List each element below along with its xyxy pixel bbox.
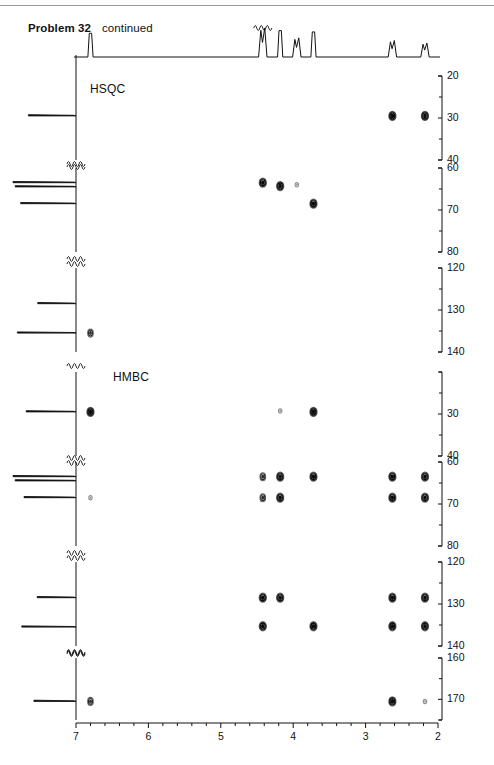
carbon-tick-hsqc-120: 120 [447, 261, 465, 273]
carbon-tick-hsqc-140: 140 [447, 345, 465, 357]
axis-break-top-5 [67, 556, 85, 561]
carbon-1d-hmbc-peak-6 [34, 700, 76, 701]
carbon-tick-hmbc-140: 140 [447, 639, 465, 651]
cross-peak-hmbc-8 [89, 496, 92, 500]
carbon-1d-hsqc-peak-0 [28, 115, 76, 116]
axis-break-bot-4 [67, 551, 85, 556]
proton-tick-5: 5 [218, 730, 224, 742]
carbon-tick-hmbc-30: 30 [447, 407, 459, 419]
carbon-1d-hmbc-peak-4 [37, 597, 76, 598]
cross-peak-hmbc-20 [421, 622, 428, 631]
carbon-tick-hsqc-70: 70 [447, 203, 459, 215]
proton-tick-3: 3 [363, 730, 369, 742]
carbon-tick-hmbc-70: 70 [447, 497, 459, 509]
cross-peak-hmbc-22 [389, 697, 396, 706]
cross-peak-hsqc-4 [295, 183, 298, 187]
cross-peak-hmbc-3 [260, 473, 266, 481]
spectrum-svg [0, 0, 494, 765]
cross-peak-hmbc-2 [310, 407, 317, 416]
cross-peak-hsqc-0 [389, 111, 396, 120]
proton-tick-4: 4 [290, 730, 296, 742]
proton-tick-6: 6 [145, 730, 151, 742]
cross-peak-hmbc-11 [389, 493, 396, 502]
proton-tick-2: 2 [435, 730, 441, 742]
carbon-1d-hmbc-peak-5 [22, 626, 76, 627]
cross-peak-hsqc-2 [259, 178, 266, 187]
cross-peak-hmbc-0 [87, 407, 94, 416]
carbon-tick-hmbc-130: 130 [447, 597, 465, 609]
carbon-axis-segment-hmbc-5 [438, 562, 442, 646]
carbon-tick-hsqc-30: 30 [447, 111, 459, 123]
proton-1d-trace [74, 28, 440, 57]
cross-peak-hmbc-19 [389, 622, 396, 631]
carbon-tick-hsqc-130: 130 [447, 303, 465, 315]
carbon-1d-hmbc-peak-2 [15, 480, 76, 481]
cross-peak-hmbc-15 [389, 593, 396, 602]
cross-peak-hmbc-12 [421, 493, 428, 502]
carbon-1d-hmbc-peak-1 [13, 476, 76, 477]
cross-peak-hmbc-17 [259, 622, 266, 631]
cross-peak-hmbc-6 [389, 472, 396, 481]
cross-peak-hmbc-16 [421, 593, 428, 602]
axis-break-top-4 [67, 456, 85, 461]
carbon-tick-hsqc-60: 60 [447, 161, 459, 173]
cross-peak-hmbc-4 [277, 472, 284, 481]
cross-peak-hsqc-3 [277, 181, 284, 190]
carbon-axis-segment-hsqc-0 [438, 76, 442, 160]
cross-peak-hmbc-18 [310, 622, 317, 631]
carbon-axis-segment-hsqc-1 [438, 168, 442, 252]
axis-break-bot-1 [67, 257, 85, 262]
carbon-1d-hsqc-peak-1 [13, 182, 76, 183]
cross-peak-hmbc-9 [260, 494, 266, 502]
carbon-1d-hsqc-peak-5 [17, 332, 76, 333]
cross-peak-hmbc-1 [278, 409, 281, 413]
cross-peak-hsqc-6 [88, 329, 94, 337]
proton-tick-7: 7 [73, 730, 79, 742]
carbon-tick-hmbc-170: 170 [447, 692, 465, 704]
carbon-1d-hsqc-peak-4 [38, 303, 76, 304]
axis-break-top-2 [67, 262, 85, 267]
cross-peak-hmbc-21 [88, 697, 94, 705]
carbon-axis-segment-hmbc-3 [438, 372, 442, 456]
axis-break-hmbc-start [67, 364, 85, 369]
carbon-1d-hmbc-peak-3 [24, 497, 76, 498]
carbon-axis-segment-hmbc-6 [438, 658, 442, 720]
proton-peak-truncation-mark [254, 26, 272, 31]
carbon-tick-hsqc-20: 20 [447, 69, 459, 81]
carbon-axis-segment-hmbc-4 [438, 462, 442, 546]
carbon-axis-segment-hsqc-2 [438, 268, 442, 352]
cross-peak-hmbc-5 [310, 472, 317, 481]
carbon-tick-hmbc-120: 120 [447, 555, 465, 567]
carbon-tick-hmbc-80: 80 [447, 539, 459, 551]
carbon-1d-hsqc-peak-3 [21, 203, 76, 204]
carbon-tick-hsqc-80: 80 [447, 245, 459, 257]
figure-canvas: Problem 32continued HSQC HMBC 2030406070… [0, 0, 494, 765]
cross-peak-hmbc-23 [423, 699, 426, 703]
cross-peak-hmbc-14 [277, 593, 284, 602]
carbon-tick-hmbc-160: 160 [447, 651, 465, 663]
cross-peak-hsqc-1 [421, 111, 428, 120]
cross-peak-hmbc-13 [259, 593, 266, 602]
carbon-1d-hmbc-peak-0 [26, 411, 76, 412]
cross-peak-hmbc-7 [421, 472, 428, 481]
carbon-tick-hmbc-60: 60 [447, 455, 459, 467]
cross-peak-hmbc-10 [277, 493, 284, 502]
carbon-1d-hsqc-peak-2 [15, 186, 76, 187]
cross-peak-hsqc-5 [310, 199, 317, 208]
proton-axis [76, 723, 438, 728]
